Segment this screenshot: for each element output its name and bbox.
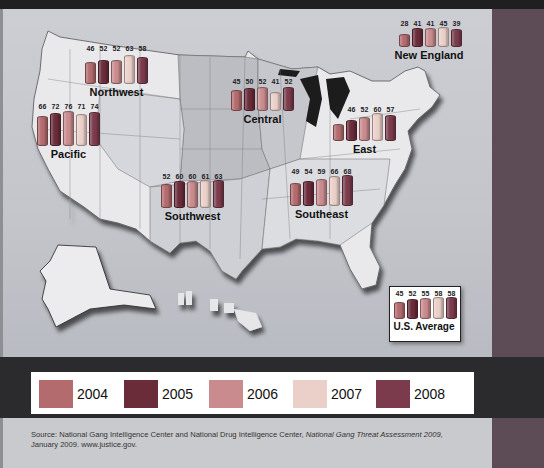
- legend-swatch: [124, 380, 158, 408]
- legend-label: 2008: [414, 386, 445, 402]
- value-label: 52: [407, 290, 418, 297]
- bar-2008: [446, 297, 457, 319]
- region-label: U.S. Average: [390, 321, 458, 332]
- legend-item-2004: 2004: [39, 380, 108, 408]
- value-label: 52: [111, 45, 122, 52]
- bar-2007: [329, 176, 340, 206]
- bar-2004: [394, 302, 405, 319]
- bar-2006: [425, 28, 436, 47]
- source-band: Source: National Gang Intelligence Cente…: [0, 418, 492, 468]
- source-prefix: Source: National Gang Intelligence Cente…: [31, 430, 306, 439]
- region-east: 37 46 52 60 57 East: [333, 106, 396, 155]
- hawaii: [178, 291, 262, 331]
- value-label: 41: [412, 20, 423, 27]
- bar-2008: [451, 29, 462, 47]
- bar-2008: [385, 115, 396, 141]
- bar-2006: [257, 87, 268, 111]
- region-southeast: 49 54 59 66 68 Southeast: [290, 168, 353, 220]
- bar-2006: [359, 117, 370, 141]
- value-label: 52: [359, 106, 370, 113]
- bar-2004: [85, 62, 96, 84]
- value-label: 37: [333, 106, 344, 113]
- value-label: 52: [98, 45, 109, 52]
- region-northwest: 46 52 52 63 58 Northwest: [85, 45, 148, 98]
- bar-2007: [76, 114, 87, 146]
- bar-2007: [200, 180, 211, 208]
- value-label: 46: [346, 106, 357, 113]
- value-label: 63: [213, 173, 224, 180]
- legend-label: 2004: [77, 386, 108, 402]
- bar-2008: [89, 112, 100, 146]
- value-label: 45: [438, 20, 449, 27]
- right-strip: [492, 9, 544, 357]
- legend: 2004 2005 2006 2007 2008: [31, 372, 474, 414]
- bar-2008: [283, 87, 294, 111]
- bar-2004: [231, 90, 242, 111]
- value-label: 45: [231, 78, 242, 85]
- source-title: National Gang Threat Assessment 2009: [306, 430, 441, 439]
- bar-2006: [63, 111, 74, 146]
- bar-2007: [438, 27, 449, 47]
- value-label: 71: [76, 103, 87, 110]
- region-new-england: 28 41 41 45 39 New England: [399, 20, 465, 61]
- bar-2008: [213, 180, 224, 208]
- bar-2008: [137, 57, 148, 84]
- value-label: 72: [50, 103, 61, 110]
- value-label: 45: [394, 290, 405, 297]
- value-label: 59: [316, 168, 327, 175]
- region-label: Central: [231, 113, 294, 125]
- bar-2005: [407, 299, 418, 319]
- value-label: 52: [257, 78, 268, 85]
- value-label: 68: [342, 168, 353, 175]
- bar-2007: [124, 55, 135, 84]
- region-label: New England: [393, 49, 465, 61]
- value-label: 60: [372, 106, 383, 113]
- value-label: 28: [399, 20, 410, 27]
- bar-2004: [290, 183, 301, 206]
- top-border: [0, 0, 544, 9]
- value-label: 63: [124, 45, 135, 52]
- legend-swatch: [39, 380, 73, 408]
- bar-2004: [161, 184, 172, 208]
- bar-2006: [316, 179, 327, 206]
- value-label: 41: [270, 78, 281, 85]
- bar-2007: [372, 113, 383, 141]
- bar-2004: [37, 116, 48, 146]
- value-label: 55: [420, 290, 431, 297]
- legend-swatch: [376, 380, 410, 408]
- legend-item-2006: 2006: [209, 380, 278, 408]
- legend-label: 2007: [331, 386, 362, 402]
- bar-2004: [333, 124, 344, 141]
- bar-2005: [412, 28, 423, 47]
- legend-item-2008: 2008: [376, 380, 445, 408]
- value-label: 60: [174, 173, 185, 180]
- region-pacific: 66 72 76 71 74 Pacific: [37, 103, 100, 160]
- bar-2007: [270, 92, 281, 111]
- bar-2005: [303, 181, 314, 206]
- legend-item-2007: 2007: [293, 380, 362, 408]
- legend-item-2005: 2005: [124, 380, 193, 408]
- value-label: 39: [451, 20, 462, 27]
- legend-label: 2005: [162, 386, 193, 402]
- value-label: 66: [329, 168, 340, 175]
- bar-2006: [111, 60, 122, 84]
- region-southwest: 52 60 60 61 63 Southwest: [161, 173, 224, 222]
- legend-swatch: [293, 380, 327, 408]
- region-label: East: [333, 143, 396, 155]
- value-label: 58: [446, 290, 457, 297]
- value-label: 61: [200, 173, 211, 180]
- bar-2006: [420, 298, 431, 319]
- value-label: 46: [85, 45, 96, 52]
- region-label: Southwest: [161, 210, 224, 222]
- region-label: Pacific: [37, 148, 100, 160]
- value-label: 54: [303, 168, 314, 175]
- right-strip-bottom: [492, 418, 544, 468]
- value-label: 58: [433, 290, 444, 297]
- value-label: 52: [283, 78, 294, 85]
- region-label: Southeast: [290, 208, 353, 220]
- region-central: 45 50 52 41 52 Central: [231, 78, 294, 125]
- bar-2005: [98, 60, 109, 84]
- legend-swatch: [209, 380, 243, 408]
- bar-2008: [342, 175, 353, 206]
- value-label: 74: [89, 103, 100, 110]
